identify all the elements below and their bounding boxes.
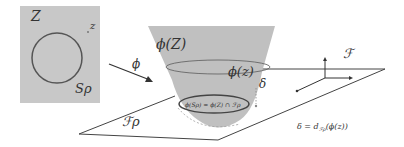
feature-space-label: ℱ [343, 46, 356, 61]
formula-text: δ = dℱρ(ϕ(z)) [297, 122, 348, 133]
axis-vertical-arrowhead [323, 57, 327, 61]
plane-edge-bottom [79, 134, 218, 140]
point-z-label: z [89, 20, 96, 31]
diagram: Z z Sρ ϕ ℱρ ϕ(Z) ϕ(z) ϕ(Sρ) = ϕ(Z) ∩ ℱρ … [0, 0, 404, 147]
delta-foot-point [255, 105, 257, 107]
phi-label: ϕ [132, 57, 140, 71]
delta-label: δ [259, 77, 266, 91]
axis-depth-endpoint [296, 90, 299, 93]
latent-space-label: Z [30, 8, 41, 24]
manifold: ϕ(Z) ϕ(z) ϕ(Sρ) = ϕ(Z) ∩ ℱρ [148, 26, 275, 128]
phi-arrow-line [109, 64, 150, 80]
manifold-label: ϕ(Z) [156, 36, 186, 52]
axis-depth [297, 78, 325, 91]
point-z-dot [87, 31, 89, 33]
plane-label: ℱρ [122, 114, 140, 129]
mapping-arrow: ϕ [109, 57, 153, 82]
latent-space: Z z Sρ [20, 6, 100, 103]
point-phi-z-label: ϕ(z) [228, 64, 254, 79]
intersection-label: ϕ(Sρ) = ϕ(Z) ∩ ℱρ [185, 101, 241, 109]
formula-subscript: ℱρ [319, 126, 326, 133]
axis-horizontal-arrowhead [349, 76, 353, 80]
formula-lhs: δ = d [297, 122, 319, 131]
formula-rhs: (ϕ(z)) [326, 122, 348, 131]
distance-formula: δ = dℱρ(ϕ(z)) [297, 122, 348, 133]
sphere-label: Sρ [75, 81, 92, 96]
